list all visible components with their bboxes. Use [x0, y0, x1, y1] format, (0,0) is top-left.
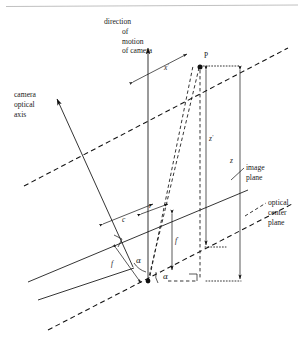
right-angle-marker-baseline [189, 274, 197, 281]
alpha-upper-label: α [136, 256, 141, 265]
image-plane-label-line1: image [246, 163, 265, 172]
center-plane-label-line2: center [268, 208, 287, 217]
image-plane-leader [231, 168, 244, 180]
ray-center-to-scene-point [148, 68, 199, 281]
f-measure-arrow [116, 248, 141, 283]
image-plane-label-line2: plane [246, 173, 263, 182]
center-plane-label-line1: optical [268, 198, 289, 207]
motion-label-line4: of camera [122, 46, 153, 55]
alpha-lower-label: α [163, 272, 168, 281]
f-prime-label: f' [175, 236, 179, 245]
motion-label-line2: of [122, 27, 129, 36]
x-prime-measure-arrow [133, 54, 187, 82]
z-label: z [229, 156, 233, 165]
r-label: r [149, 201, 152, 210]
camera-optical-axis-arrow [57, 99, 133, 267]
image-plane-line [28, 190, 248, 282]
motion-label-line3: motion [122, 37, 144, 46]
optical-axis-label-line1: camera [14, 90, 37, 99]
optical-axis-back-ray [38, 268, 134, 300]
scene-point-marker [198, 65, 203, 70]
x-prime-label: x' [163, 63, 169, 72]
diagram-canvas: direction of motion of camera camera opt… [0, 0, 304, 341]
motion-label-line1: direction [104, 17, 131, 26]
c-label: c [122, 215, 126, 224]
center-plane-label-line3: plane [268, 218, 285, 227]
optical-axis-label-line2: optical [14, 100, 35, 109]
scene-point-label: P [204, 51, 208, 60]
ray-secondary-dashed [150, 66, 193, 276]
camera-center-marker [146, 279, 151, 284]
f-label: f [111, 259, 114, 268]
optical-axis-label-line3: axis [14, 110, 26, 119]
top-rule [6, 5, 298, 7]
camera-geometry-svg: direction of motion of camera camera opt… [0, 0, 304, 341]
z-prime-label: z' [208, 134, 214, 143]
center-plane-leader [245, 203, 266, 216]
c-measure-arrow [103, 204, 153, 224]
